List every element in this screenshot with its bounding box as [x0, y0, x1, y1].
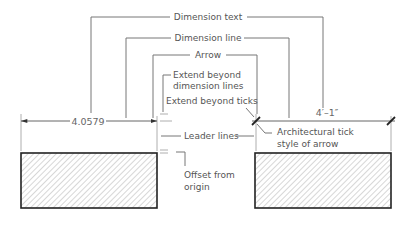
label-dimension-line: Dimension line	[175, 33, 242, 43]
label-arch-tick-1: Architectural tick	[277, 127, 355, 137]
architectural-tick-leader	[257, 124, 272, 133]
left-hatched-object	[21, 153, 157, 208]
label-extend-beyond-2: dimension lines	[173, 81, 244, 91]
label-dimension-text: Dimension text	[174, 12, 243, 22]
label-extend-beyond-1: Extend beyond	[173, 70, 241, 80]
label-offset-2: origin	[184, 182, 210, 192]
label-arch-tick-2: style of arrow	[277, 139, 338, 149]
left-dimension-text: 4.0579	[71, 116, 104, 127]
dimension-diagram: 4.0579 4′–1″ Dimension text Dimension li…	[0, 0, 413, 225]
offset-leader	[176, 152, 185, 166]
dimension-line-leader-left	[126, 38, 171, 118]
label-leader-lines: Leader lines	[184, 131, 239, 141]
dimension-line-leader-right	[244, 38, 289, 118]
dimension-text-leader-left	[91, 17, 170, 113]
extend-dimension-lines-leader	[163, 75, 171, 112]
extend-ticks-leader	[246, 108, 254, 117]
right-dimension-text: 4′–1″	[316, 107, 339, 118]
dimension-text-leader-right	[247, 17, 323, 108]
label-offset-1: Offset from	[184, 170, 235, 180]
label-arrow: Arrow	[195, 50, 221, 60]
right-hatched-object	[255, 153, 391, 208]
label-extend-beyond-ticks: Extend beyond ticks	[166, 96, 258, 106]
